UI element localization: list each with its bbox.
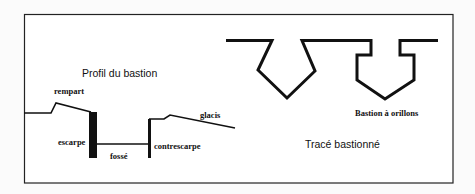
- fortification-diagram: Profil du bastion rempart escarpe fossé …: [0, 0, 475, 194]
- label-contrescarpe: contrescarpe: [154, 141, 201, 151]
- label-fosse: fossé: [110, 151, 128, 161]
- escarpe-wall: [89, 112, 97, 158]
- label-escarpe: escarpe: [58, 137, 86, 147]
- label-bastion-orillons: Bastion à orillons: [355, 108, 419, 118]
- label-rempart: rempart: [54, 86, 84, 96]
- trace-title: Tracé bastionné: [305, 138, 380, 150]
- profile-title: Profil du bastion: [82, 67, 157, 79]
- label-glacis: glacis: [200, 110, 221, 120]
